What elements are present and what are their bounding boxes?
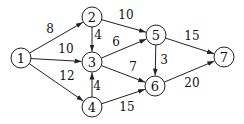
edge-weight-1-3: 10: [58, 42, 73, 56]
node-label: 7: [220, 50, 228, 65]
node-1: 1: [11, 48, 31, 68]
edge-1-4: [29, 64, 83, 101]
node-label: 4: [88, 100, 96, 115]
node-label: 1: [17, 51, 25, 66]
edge-weight-3-6: 7: [129, 60, 137, 74]
node-3: 3: [82, 52, 102, 72]
edge-weight-2-3: 4: [94, 28, 102, 42]
edge-weight-3-5: 6: [112, 35, 120, 49]
node-4: 4: [82, 97, 102, 117]
edge-weight-5-7: 15: [184, 29, 199, 43]
node-label: 5: [152, 28, 160, 43]
edge-5-6: [155, 45, 156, 76]
edge-weight-1-2: 8: [46, 22, 54, 36]
weighted-directed-graph: 810124106741531520 1234567: [0, 0, 244, 124]
edge-weight-5-6: 3: [160, 53, 168, 67]
edge-weight-4-3: 4: [93, 79, 101, 93]
node-label: 2: [88, 10, 96, 25]
node-label: 3: [88, 55, 96, 70]
node-2: 2: [82, 7, 102, 27]
edge-3-5: [101, 39, 146, 58]
node-7: 7: [214, 47, 234, 67]
edge-weight-6-7: 20: [184, 76, 199, 90]
edge-1-3: [31, 59, 82, 62]
edge-weight-4-6: 15: [119, 100, 134, 114]
node-label: 6: [151, 79, 159, 94]
node-6: 6: [145, 76, 165, 96]
edge-weight-1-4: 12: [59, 69, 74, 83]
edge-1-2: [30, 22, 83, 53]
edge-3-6: [101, 66, 145, 83]
edge-weight-2-5: 10: [118, 8, 133, 22]
node-5: 5: [146, 25, 166, 45]
